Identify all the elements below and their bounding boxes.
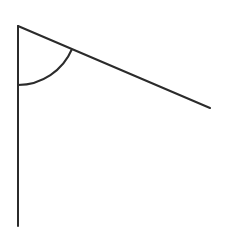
angle-diagram <box>0 0 226 234</box>
angle-figure <box>0 0 226 234</box>
angle-arc <box>18 49 72 85</box>
slanted-ray <box>18 26 210 108</box>
